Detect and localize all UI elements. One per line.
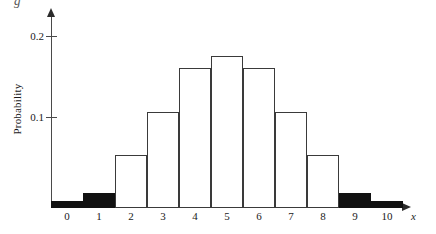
y-axis-tick-0.1 — [46, 117, 57, 118]
x-axis-tick-label-6: 6 — [243, 210, 275, 222]
bar-9 — [339, 193, 371, 208]
bar-0 — [51, 201, 83, 208]
x-axis-arrow-icon — [402, 203, 411, 211]
bar-6 — [243, 68, 275, 208]
clipped-top-glyph: g — [14, 0, 21, 9]
x-axis-tick-label-7: 7 — [275, 210, 307, 222]
x-axis-tick-label-1: 1 — [83, 210, 115, 222]
bar-8 — [307, 155, 339, 208]
bar-7 — [275, 112, 307, 208]
x-axis-tick-label-8: 8 — [307, 210, 339, 222]
y-axis-line — [51, 14, 52, 208]
bar-3 — [147, 112, 179, 208]
bar-1 — [83, 193, 115, 208]
y-axis-title: Probability — [11, 69, 23, 149]
x-axis-title: x — [411, 210, 416, 222]
x-axis-tick-label-2: 2 — [115, 210, 147, 222]
y-axis-tick-label-0.1: 0.1 — [4, 111, 44, 123]
y-axis-tick-label-0.2: 0.2 — [4, 30, 44, 42]
y-axis-tick-0.2 — [46, 36, 57, 37]
x-axis-tick-label-10: 10 — [371, 210, 403, 222]
x-axis-tick-label-3: 3 — [147, 210, 179, 222]
x-axis-tick-label-4: 4 — [179, 210, 211, 222]
y-axis-arrow-icon — [47, 8, 55, 17]
x-axis-tick-label-9: 9 — [339, 210, 371, 222]
x-axis-tick-label-5: 5 — [211, 210, 243, 222]
bar-5 — [211, 56, 243, 208]
bar-2 — [115, 155, 147, 208]
probability-histogram-chart: g 0.2 0.1 Probability x 012345678910 — [0, 0, 436, 234]
x-axis-tick-label-0: 0 — [51, 210, 83, 222]
bar-10 — [371, 201, 403, 208]
bar-4 — [179, 68, 211, 208]
